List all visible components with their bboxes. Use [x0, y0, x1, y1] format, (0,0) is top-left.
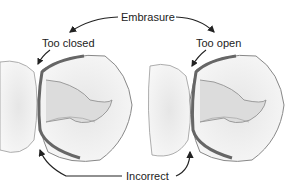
label-too-open: Too open — [196, 37, 241, 49]
right-tooth-pair — [148, 50, 284, 161]
adjacent-tooth-right — [148, 64, 190, 156]
incorrect-arrow-right — [176, 152, 190, 176]
label-embrasure: Embrasure — [121, 11, 175, 23]
label-too-closed: Too closed — [42, 37, 95, 49]
left-tooth-pair — [0, 50, 132, 161]
label-incorrect: Incorrect — [126, 170, 169, 182]
arrow-to-right — [176, 17, 214, 32]
embrasure-diagram — [0, 0, 292, 185]
arrow-to-left — [70, 17, 118, 32]
adjacent-tooth-left — [0, 61, 37, 152]
